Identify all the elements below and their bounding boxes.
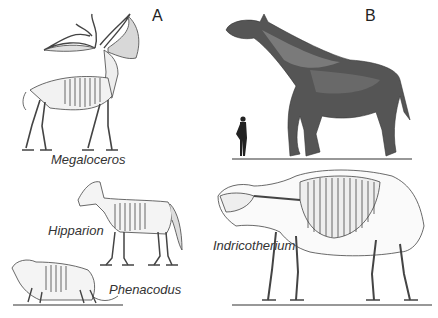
label-indricotherium: Indricotherium (213, 238, 295, 253)
human-silhouette (236, 116, 247, 156)
paraceratherium-reconstruction (226, 14, 410, 156)
panel-label-b: B (365, 7, 376, 25)
panel-label-a: A (152, 7, 163, 25)
label-megaloceros: Megaloceros (51, 152, 125, 167)
megaloceros-skeleton (22, 14, 139, 150)
label-phenacodus: Phenacodus (109, 282, 181, 297)
indricotherium-skeleton (218, 170, 424, 300)
label-hipparion: Hipparion (48, 223, 104, 238)
phenacodus-skeleton (12, 260, 118, 303)
